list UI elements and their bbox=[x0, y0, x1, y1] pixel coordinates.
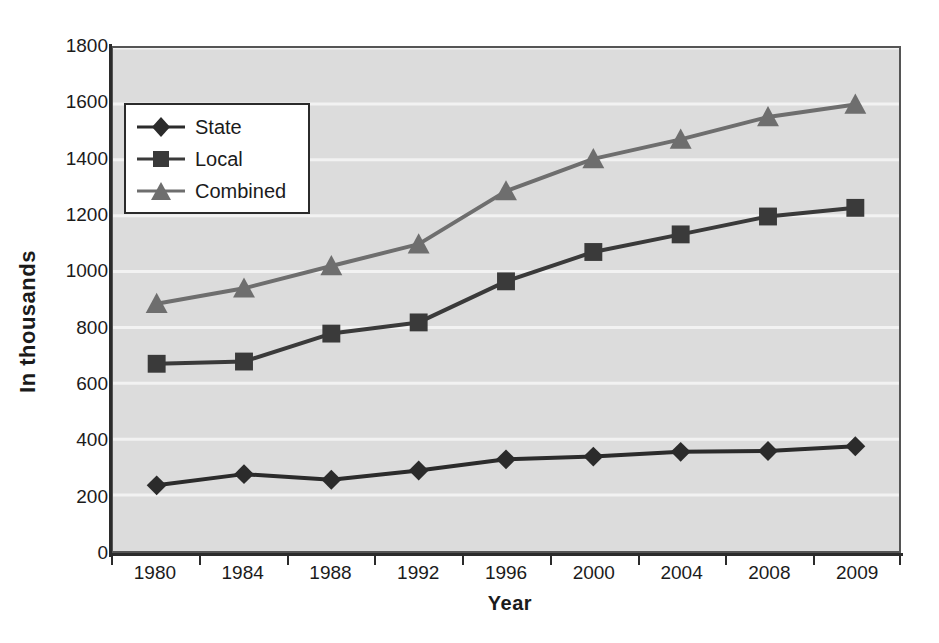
data-point-local-1992 bbox=[410, 313, 428, 331]
data-point-state-2004 bbox=[671, 442, 691, 462]
x-tick-label-1992: 1992 bbox=[374, 560, 462, 586]
legend-item-combined[interactable]: Combined bbox=[126, 175, 308, 207]
x-tick-label-1996: 1996 bbox=[462, 560, 550, 586]
data-point-state-1992 bbox=[409, 461, 429, 481]
y-tick-label-200: 200 bbox=[48, 487, 108, 506]
y-axis-tick-labels: 020040060080010001200140016001800 bbox=[48, 0, 108, 643]
y-axis-line bbox=[109, 44, 112, 557]
data-point-local-1988 bbox=[322, 325, 340, 343]
data-point-local-2009 bbox=[846, 199, 864, 217]
y-tick-label-400: 400 bbox=[48, 430, 108, 449]
data-point-state-1988 bbox=[321, 470, 341, 490]
legend-label-combined: Combined bbox=[187, 179, 286, 203]
square-marker-icon bbox=[135, 147, 187, 171]
legend-item-state[interactable]: State bbox=[126, 111, 308, 143]
data-point-local-1996 bbox=[497, 272, 515, 290]
data-point-local-1984 bbox=[235, 353, 253, 371]
x-tick-label-2004: 2004 bbox=[638, 560, 726, 586]
triangle-marker-icon bbox=[135, 179, 187, 203]
y-tick-label-1400: 1400 bbox=[48, 149, 108, 168]
y-tick-label-1000: 1000 bbox=[48, 261, 108, 280]
y-tick-label-1600: 1600 bbox=[48, 92, 108, 111]
line-chart: In thousands 020040060080010001200140016… bbox=[0, 0, 939, 643]
y-tick-label-800: 800 bbox=[48, 318, 108, 337]
data-point-state-2008 bbox=[758, 441, 778, 461]
x-tick-label-2008: 2008 bbox=[725, 560, 813, 586]
x-axis-title: Year bbox=[110, 592, 910, 615]
x-tick-label-1984: 1984 bbox=[199, 560, 287, 586]
legend-item-local[interactable]: Local bbox=[126, 143, 308, 175]
x-tick-label-2000: 2000 bbox=[550, 560, 638, 586]
diamond-marker-icon bbox=[135, 115, 187, 139]
data-point-state-1996 bbox=[496, 449, 516, 469]
x-tick-label-1980: 1980 bbox=[111, 560, 199, 586]
data-point-local-1980 bbox=[148, 355, 166, 373]
legend-label-state: State bbox=[187, 115, 242, 139]
y-tick-label-1200: 1200 bbox=[48, 205, 108, 224]
x-axis-tick-labels: 198019841988199219962000200420082009 bbox=[111, 560, 901, 586]
data-point-state-2000 bbox=[583, 447, 603, 467]
data-point-state-1980 bbox=[147, 475, 167, 495]
legend-label-local: Local bbox=[187, 147, 243, 171]
data-point-local-2008 bbox=[759, 208, 777, 226]
y-tick-label-600: 600 bbox=[48, 374, 108, 393]
x-tick-label-1988: 1988 bbox=[287, 560, 375, 586]
data-point-combined-1992 bbox=[408, 233, 430, 253]
chart-legend: State Local Combined bbox=[124, 103, 310, 214]
x-tick-label-2009: 2009 bbox=[813, 560, 901, 586]
data-point-state-1984 bbox=[234, 464, 254, 484]
y-tick-label-0: 0 bbox=[48, 543, 108, 562]
y-tick-label-1800: 1800 bbox=[48, 36, 108, 55]
y-axis-title-text: In thousands bbox=[8, 0, 48, 643]
data-point-local-2004 bbox=[672, 225, 690, 243]
data-point-local-2000 bbox=[584, 243, 602, 261]
